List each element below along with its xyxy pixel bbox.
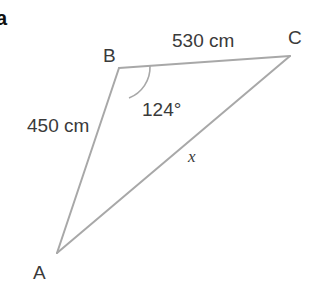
triangle-figure: a B C A 530 cm 450 cm x 124° — [0, 0, 322, 288]
side-ac-line — [57, 56, 290, 253]
triangle-drawing — [0, 0, 322, 288]
angle-arc-b — [129, 66, 150, 98]
side-bc-line — [119, 56, 290, 68]
side-label-bc: 530 cm — [172, 31, 234, 50]
side-label-ab: 450 cm — [27, 116, 89, 135]
vertex-label-a: A — [33, 263, 46, 282]
side-label-ac-variable: x — [188, 148, 196, 165]
angle-label-b: 124° — [142, 100, 181, 119]
vertex-label-b: B — [103, 46, 116, 65]
side-ab-line — [57, 68, 119, 253]
vertex-label-c: C — [288, 28, 302, 47]
